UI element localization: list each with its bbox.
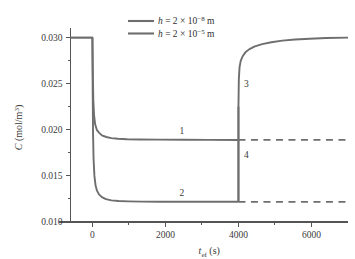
curve-label-1: 1	[179, 126, 184, 136]
chart-figure: 0.0100.0150.0200.0250.030 0200040006000 …	[0, 0, 355, 259]
axes-group	[59, 28, 349, 222]
x-tick-label: 2000	[156, 230, 175, 240]
curve-2-path	[71, 38, 239, 202]
curve-label-4: 4	[244, 150, 249, 160]
x-tick-label: 0	[90, 230, 95, 240]
x-tick-label: 4000	[229, 230, 248, 240]
y-tick-label: 0.020	[41, 125, 63, 135]
legend-label-2: h = 2 × 10−5 m	[158, 28, 215, 39]
y-tick-label: 0.015	[41, 171, 63, 181]
chart-plot-area: 0.0100.0150.0200.0250.030 0200040006000 …	[0, 0, 355, 259]
curve-3-path	[238, 38, 348, 202]
x-tick-label: 6000	[302, 230, 321, 240]
y-tick-label: 0.010	[41, 217, 63, 227]
y-axis-tick-labels: 0.0100.0150.0200.0250.030	[41, 33, 63, 227]
legend-label-1: h = 2 × 10−8 m	[158, 15, 215, 26]
y-tick-label: 0.030	[41, 33, 63, 43]
y-axis-title: C (mol/m3)	[13, 105, 25, 150]
dashed-reference-lines	[238, 140, 348, 202]
curve-1-path	[71, 38, 239, 140]
y-axis-ticks	[66, 38, 71, 222]
curve-label-3: 3	[244, 79, 249, 89]
y-tick-label: 0.025	[41, 79, 63, 89]
x-axis-title: tef (s)	[199, 245, 220, 259]
chart-legend: h = 2 × 10−8 mh = 2 × 10−5 m	[128, 15, 215, 39]
x-axis-ticks	[92, 222, 311, 227]
curve-label-2: 2	[179, 188, 184, 198]
x-axis-tick-labels: 0200040006000	[90, 230, 321, 240]
data-curves	[71, 38, 349, 202]
